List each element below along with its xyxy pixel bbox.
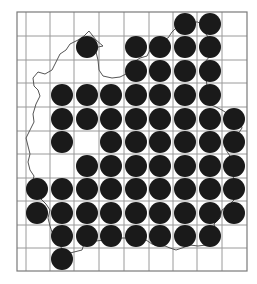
occurrence-dot xyxy=(100,202,122,224)
occurrence-dot xyxy=(174,225,196,247)
occurrence-dot xyxy=(149,108,171,130)
occurrence-dot xyxy=(100,225,122,247)
occurrence-dot xyxy=(174,131,196,153)
occurrence-dot xyxy=(199,13,221,35)
occurrence-dot xyxy=(51,84,73,106)
distribution-map xyxy=(0,0,257,284)
occurrence-dot xyxy=(223,108,245,130)
occurrence-dot xyxy=(223,155,245,177)
occurrence-dot xyxy=(26,202,48,224)
occurrence-dot xyxy=(125,131,147,153)
occurrence-dot xyxy=(174,36,196,58)
occurrence-dot xyxy=(174,202,196,224)
occurrence-dot xyxy=(199,131,221,153)
occurrence-dot xyxy=(51,178,73,200)
occurrence-dot xyxy=(125,108,147,130)
occurrence-dot xyxy=(223,178,245,200)
occurrence-dot xyxy=(51,225,73,247)
occurrence-dot xyxy=(149,36,171,58)
occurrence-dot xyxy=(125,60,147,82)
occurrence-dot xyxy=(51,202,73,224)
occurrence-dot xyxy=(51,108,73,130)
occurrence-dot xyxy=(76,155,98,177)
occurrence-dot xyxy=(26,178,48,200)
occurrence-dot xyxy=(149,155,171,177)
occurrence-dot xyxy=(174,13,196,35)
occurrence-dot xyxy=(76,202,98,224)
occurrence-dot xyxy=(149,84,171,106)
occurrence-dot xyxy=(76,178,98,200)
occurrence-dot xyxy=(100,84,122,106)
occurrence-dot xyxy=(223,131,245,153)
occurrence-dot xyxy=(149,202,171,224)
occurrence-dot xyxy=(199,155,221,177)
occurrence-dot xyxy=(76,225,98,247)
occurrence-dot xyxy=(199,60,221,82)
occurrence-dot xyxy=(174,108,196,130)
occurrence-dot xyxy=(76,108,98,130)
occurrence-dot xyxy=(125,225,147,247)
occurrence-dot xyxy=(223,202,245,224)
occurrence-dot xyxy=(76,36,98,58)
occurrence-dot xyxy=(100,108,122,130)
occurrence-dot xyxy=(125,84,147,106)
occurrence-dot xyxy=(100,178,122,200)
occurrence-dot xyxy=(199,178,221,200)
occurrence-dot xyxy=(149,60,171,82)
occurrence-dots xyxy=(26,13,245,270)
occurrence-dot xyxy=(125,202,147,224)
occurrence-dot xyxy=(174,60,196,82)
occurrence-dot xyxy=(76,84,98,106)
occurrence-dot xyxy=(125,36,147,58)
occurrence-dot xyxy=(199,36,221,58)
occurrence-dot xyxy=(51,248,73,270)
occurrence-dot xyxy=(100,155,122,177)
occurrence-dot xyxy=(125,178,147,200)
occurrence-dot xyxy=(149,178,171,200)
occurrence-dot xyxy=(149,131,171,153)
occurrence-dot xyxy=(51,131,73,153)
occurrence-dot xyxy=(174,155,196,177)
occurrence-dot xyxy=(174,84,196,106)
occurrence-dot xyxy=(199,84,221,106)
occurrence-dot xyxy=(199,225,221,247)
occurrence-dot xyxy=(100,131,122,153)
occurrence-dot xyxy=(125,155,147,177)
occurrence-dot xyxy=(199,202,221,224)
occurrence-dot xyxy=(199,108,221,130)
occurrence-dot xyxy=(174,178,196,200)
occurrence-dot xyxy=(149,225,171,247)
